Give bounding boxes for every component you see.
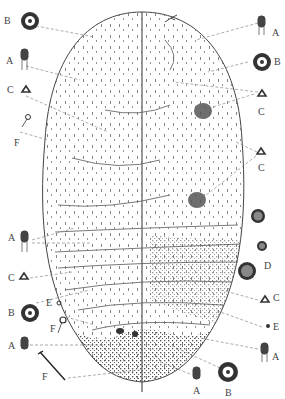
pore-disc-icon	[21, 304, 39, 322]
label-D: D	[264, 261, 271, 271]
label-F: F	[50, 324, 56, 334]
seta-icon	[58, 317, 66, 333]
tubular-duct-icon	[258, 16, 265, 35]
label-A: A	[272, 28, 279, 38]
label-C: C	[8, 273, 15, 283]
body-pore-cluster	[194, 103, 212, 119]
label-A: A	[193, 386, 200, 396]
pore-disc-icon	[21, 12, 39, 30]
tubular-duct-icon	[193, 367, 200, 379]
label-A: A	[272, 352, 279, 362]
label-C: C	[258, 163, 265, 173]
label-B: B	[4, 16, 11, 26]
pore-disc-icon	[253, 53, 271, 71]
label-A: A	[8, 233, 15, 243]
label-E: E	[46, 298, 52, 308]
label-A: A	[8, 341, 15, 351]
small-pore-icon	[266, 324, 270, 328]
label-E: E	[273, 322, 279, 332]
tubular-duct-icon	[21, 49, 28, 70]
tubular-duct-icon	[21, 231, 28, 252]
label-B: B	[8, 308, 15, 318]
disc-pore-icon	[238, 262, 256, 280]
body-pore-cluster	[188, 192, 206, 208]
scale-insect-diagram	[0, 0, 285, 399]
label-C: C	[7, 85, 14, 95]
seta-icon	[22, 115, 31, 128]
label-F: F	[14, 138, 20, 148]
label-B: B	[225, 388, 232, 398]
label-C: C	[273, 293, 280, 303]
label-C: C	[258, 107, 265, 117]
tubular-duct-icon	[21, 337, 28, 349]
label-F: F	[42, 372, 48, 382]
tubular-duct-icon	[261, 343, 268, 362]
label-B: B	[274, 57, 281, 67]
pore-disc-icon	[218, 362, 238, 382]
label-A: A	[6, 56, 13, 66]
disc-pore-icon	[251, 209, 265, 223]
disc-pore-icon	[257, 241, 267, 251]
